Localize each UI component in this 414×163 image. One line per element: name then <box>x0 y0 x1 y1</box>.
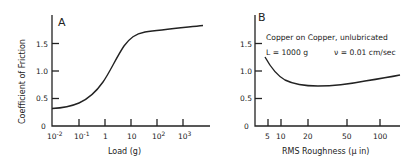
panel-b-ytick-1.5: 1.5 <box>240 40 252 49</box>
panel-b-xtick-10: 10 <box>276 132 286 141</box>
panel-a-ytick-1.5: 1.5 <box>36 40 48 49</box>
panel-b-xtick-50: 50 <box>342 132 352 141</box>
panel-b-annotation-load: L = 1000 g <box>266 48 308 57</box>
panel-a-xlabel: Load (g) <box>108 147 141 156</box>
panel-a: A 0 0.5 1.0 1.5 Coefficient of Friction … <box>18 15 210 156</box>
panel-b-xtick-100: 100 <box>373 132 388 141</box>
panel-a-ytick-0: 0 <box>41 122 46 131</box>
panel-a-curve <box>52 26 203 109</box>
panel-a-ytick-1.0: 1.0 <box>36 67 48 76</box>
panel-a-xtick-1: 10-1 <box>74 130 90 141</box>
panel-b-axes <box>255 15 400 126</box>
panel-a-xtick-5: 103 <box>178 130 192 141</box>
panel-b-xlabel: RMS Roughness (μ in) <box>282 147 369 156</box>
panel-b: B 0 0.5 1.0 1.5 5 10 20 50 100 RMS Rough… <box>240 11 400 156</box>
panel-a-xtick-3: 10 <box>127 132 137 141</box>
panel-b-y-ticks <box>255 44 262 99</box>
panel-a-xtick-4: 102 <box>152 130 166 141</box>
panel-b-x-ticks <box>268 119 380 126</box>
panel-a-y-ticks <box>52 44 59 99</box>
panel-a-ytick-0.5: 0.5 <box>36 94 48 103</box>
panel-a-label: A <box>58 16 66 29</box>
friction-figure: A 0 0.5 1.0 1.5 Coefficient of Friction … <box>0 0 414 163</box>
panel-b-xtick-5: 5 <box>265 132 270 141</box>
panel-b-ytick-0: 0 <box>244 122 249 131</box>
panel-b-curve <box>265 57 400 86</box>
panel-a-xtick-2: 1 <box>103 132 108 141</box>
panel-a-xtick-0: 10-2 <box>47 130 63 141</box>
panel-b-annotation-material: Copper on Copper, unlubricated <box>266 33 388 42</box>
panel-a-x-ticks <box>79 119 183 126</box>
panel-a-axes <box>52 15 210 126</box>
panel-a-ylabel: Coefficient of Friction <box>18 39 27 124</box>
panel-b-label: B <box>258 11 266 24</box>
panel-b-xtick-20: 20 <box>303 132 313 141</box>
panel-b-ytick-1.0: 1.0 <box>240 67 252 76</box>
panel-b-annotation-velocity: ν = 0.01 cm/sec <box>334 48 396 57</box>
panel-b-ytick-0.5: 0.5 <box>240 94 252 103</box>
